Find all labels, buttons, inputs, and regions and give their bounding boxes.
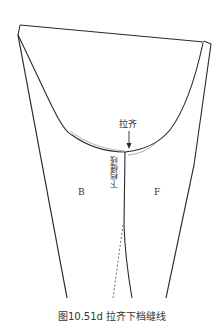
figure-caption: 图10.51d 拉齐下档缝线 xyxy=(0,308,224,323)
align-label: 拉齐 xyxy=(119,117,137,130)
inseam-solid xyxy=(124,152,132,298)
crotch-curve-front xyxy=(125,43,203,152)
outer-right-seam xyxy=(166,165,194,298)
waist-line xyxy=(20,25,204,42)
align-arrow-head xyxy=(127,143,132,149)
crotch-curve-back xyxy=(18,35,125,152)
outer-left-seam xyxy=(18,35,67,298)
top-right-tab xyxy=(194,41,211,165)
back-label: B xyxy=(78,187,85,197)
seam-label: 下档缝线 xyxy=(111,156,119,188)
front-label: F xyxy=(154,187,160,197)
inseam-dashed xyxy=(113,225,123,298)
top-left-corner xyxy=(18,25,20,35)
